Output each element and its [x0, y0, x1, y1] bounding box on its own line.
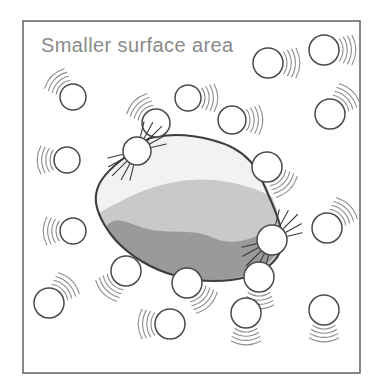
page-title: Smaller surface area — [41, 34, 234, 56]
particle-circle — [231, 298, 261, 328]
particle-circle — [54, 147, 80, 173]
particle-circle — [60, 84, 86, 110]
particle-circle — [155, 309, 185, 339]
particle-circle — [172, 268, 202, 298]
particle-circle — [309, 35, 339, 65]
particle-circle — [252, 152, 282, 182]
particle-circle — [60, 218, 86, 244]
particle-circle — [253, 48, 283, 78]
surface-area-diagram: Smaller surface area — [0, 0, 379, 389]
particle-circle — [257, 225, 287, 255]
particle-circle — [244, 262, 274, 292]
particle-circle — [123, 137, 151, 165]
particle-circle — [142, 109, 170, 137]
particle-circle — [312, 213, 342, 243]
particle-circle — [315, 99, 345, 129]
particle-circle — [111, 256, 141, 286]
particle-circle — [34, 288, 64, 318]
particle-circle — [175, 85, 201, 111]
particle-circle — [218, 106, 246, 134]
particle-circle — [309, 295, 339, 325]
figure-container: Smaller surface area — [0, 0, 379, 389]
